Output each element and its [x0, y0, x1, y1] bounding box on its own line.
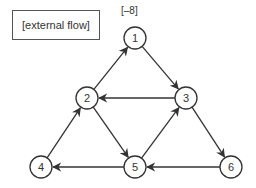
network-graph: 123456: [0, 0, 256, 188]
node-label: 1: [132, 32, 138, 44]
edge-3-to-6: [192, 107, 224, 157]
node-label: 5: [132, 161, 138, 173]
node-3: 3: [175, 87, 197, 109]
node-label: 3: [183, 92, 189, 104]
edges-group: [47, 46, 224, 167]
edge-2-to-5: [93, 107, 128, 157]
node-6: 6: [220, 156, 242, 178]
edge-5-to-3: [142, 108, 179, 159]
edge-4-to-2: [47, 108, 80, 158]
node-label: 2: [84, 92, 90, 104]
edge-2-to-1: [94, 47, 128, 89]
edge-1-to-3: [142, 46, 178, 88]
nodes-group: 123456: [30, 27, 242, 178]
node-label: 6: [228, 161, 234, 173]
node-2: 2: [76, 87, 98, 109]
node-label: 4: [38, 161, 44, 173]
node-1: 1: [124, 27, 146, 49]
node-4: 4: [30, 156, 52, 178]
node-5: 5: [124, 156, 146, 178]
